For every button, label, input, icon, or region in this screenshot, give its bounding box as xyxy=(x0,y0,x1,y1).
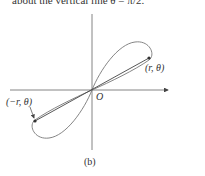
point-neg-r-theta xyxy=(33,119,36,122)
neg-point-label: (−r, θ) xyxy=(6,96,32,107)
point-r-theta xyxy=(147,56,150,59)
curve-lobe-lower xyxy=(32,90,92,138)
point-label: (r, θ) xyxy=(145,62,164,73)
subfigure-label: (b) xyxy=(84,156,96,167)
pointer-arrow xyxy=(30,107,34,118)
origin-label: O xyxy=(96,91,103,102)
lemniscate-diagram xyxy=(0,0,205,176)
curve-lobe-upper xyxy=(92,42,152,90)
